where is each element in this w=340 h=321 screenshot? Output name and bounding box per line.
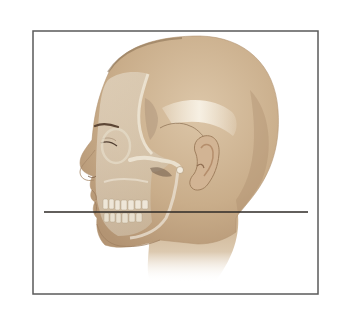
head-anatomy-figure: [0, 0, 340, 321]
mandibular-condyle: [177, 167, 184, 174]
head-anatomy-illustration: [0, 0, 340, 321]
